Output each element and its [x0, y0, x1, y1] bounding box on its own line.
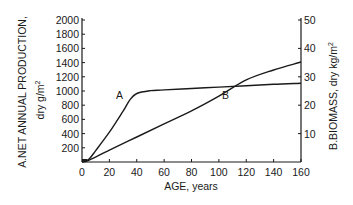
y2-axis-label-text: B.BIOMASS, dry kg/m [327, 46, 339, 150]
y2-tick-label: 10 [304, 128, 316, 140]
x-tick-label: 60 [158, 166, 170, 178]
x-tick-label: 20 [104, 166, 116, 178]
y-axis-label-units: dry g/m2 [34, 80, 46, 119]
svg-text:B.BIOMASS, dry kg/m2: B.BIOMASS, dry kg/m2 [327, 42, 339, 150]
y-tick-label: 800 [61, 99, 79, 111]
x-axis-label: AGE, years [164, 180, 218, 192]
y-axis-label-line1: A.NET ANNUAL PRODUCTION, [16, 16, 28, 168]
origin-marker [82, 159, 87, 162]
y-tick-label: 1800 [56, 28, 80, 40]
line-chart: 200400600800100012001400160018002000 102… [0, 0, 353, 205]
x-axis: 020406080100120140160 [79, 159, 310, 178]
x-tick-label: 80 [186, 166, 198, 178]
right-axis: 1020304050 [298, 14, 316, 162]
left-axis: 200400600800100012001400160018002000 [56, 14, 85, 162]
y-tick-label: 200 [61, 142, 79, 154]
series-a-label: A [116, 89, 123, 101]
x-tick-label: 40 [131, 166, 143, 178]
y-tick-label: 1200 [56, 71, 80, 83]
x-tick-label: 160 [292, 166, 310, 178]
y2-axis-superscript: 2 [327, 42, 334, 46]
x-tick-label: 100 [210, 166, 228, 178]
y-tick-label: 400 [61, 128, 79, 140]
y-tick-label: 1000 [56, 85, 80, 97]
y-tick-label: 600 [61, 113, 79, 125]
y2-tick-label: 50 [304, 14, 316, 26]
y-axis-units: dry g/m [34, 84, 46, 119]
y2-tick-label: 40 [304, 42, 316, 54]
svg-text:dry g/m2: dry g/m2 [34, 80, 46, 119]
y-tick-label: 2000 [56, 14, 80, 26]
series-b-line [82, 62, 301, 162]
x-tick-label: 140 [265, 166, 283, 178]
y-tick-label: 1400 [56, 57, 80, 69]
y2-axis-label: B.BIOMASS, dry kg/m2 [327, 42, 339, 150]
y-axis-label: A.NET ANNUAL PRODUCTION, [16, 16, 28, 168]
y-axis-units-superscript: 2 [34, 80, 41, 84]
series-a-line [82, 83, 301, 162]
series-b-label: B [222, 89, 229, 101]
y2-tick-label: 20 [304, 99, 316, 111]
x-tick-label: 120 [237, 166, 255, 178]
y-tick-label: 1600 [56, 42, 80, 54]
x-tick-label: 0 [79, 166, 85, 178]
y2-tick-label: 30 [304, 71, 316, 83]
